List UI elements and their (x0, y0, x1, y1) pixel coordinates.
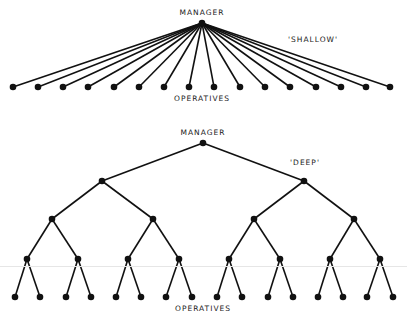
operative-node (340, 294, 347, 301)
operative-node (211, 84, 218, 91)
reporting-line (254, 219, 280, 259)
reporting-line (202, 23, 290, 87)
reporting-line (179, 259, 192, 297)
reporting-line (318, 259, 330, 297)
deep-operatives-label: OPERATIVES (175, 305, 231, 313)
operative-node (88, 294, 95, 301)
shallow-manager-label: MANAGER (180, 9, 225, 17)
middle-manager-node (351, 216, 358, 223)
middle-manager-node (277, 256, 284, 263)
reporting-line (229, 259, 242, 297)
diagram-canvas (0, 0, 407, 317)
operative-node (364, 294, 371, 301)
middle-manager-node (24, 256, 31, 263)
deep-title-label: 'DEEP' (290, 159, 320, 167)
reporting-line (280, 259, 293, 297)
operative-node (10, 84, 17, 91)
operative-node (186, 84, 193, 91)
middle-manager-node (301, 178, 308, 185)
reporting-line (166, 259, 179, 297)
reporting-line (52, 181, 102, 219)
middle-manager-node (75, 256, 82, 263)
middle-manager-node (251, 216, 258, 223)
operative-node (138, 294, 145, 301)
middle-manager-node (176, 256, 183, 263)
reporting-line (268, 259, 280, 297)
reporting-line (27, 219, 52, 259)
operative-node (239, 294, 246, 301)
reporting-line (116, 259, 128, 297)
reporting-line (254, 181, 304, 219)
shallow-operatives-label: OPERATIVES (174, 95, 230, 103)
reporting-line (102, 181, 153, 219)
reporting-line (304, 181, 354, 219)
reporting-line (27, 259, 40, 297)
middle-manager-node (327, 256, 334, 263)
operative-node (60, 84, 67, 91)
middle-manager-node (99, 178, 106, 185)
reporting-line (66, 259, 78, 297)
reporting-line (354, 219, 380, 259)
reporting-line (330, 219, 354, 259)
deep-hierarchy-tree (12, 140, 397, 301)
reporting-line (153, 219, 179, 259)
reporting-line (202, 23, 341, 87)
operative-node (37, 294, 44, 301)
reporting-line (128, 259, 141, 297)
shallow-hierarchy-tree (10, 20, 394, 91)
operative-node (287, 84, 294, 91)
reporting-line (330, 259, 343, 297)
reporting-line (78, 259, 91, 297)
reporting-line (114, 23, 202, 87)
operative-node (290, 294, 297, 301)
reporting-line (63, 23, 202, 87)
operative-node (363, 84, 370, 91)
operative-node (338, 84, 345, 91)
reporting-line (38, 23, 202, 87)
operative-node (237, 84, 244, 91)
operative-node (35, 84, 42, 91)
operative-node (12, 294, 19, 301)
reporting-line (128, 219, 153, 259)
reporting-line (202, 23, 390, 87)
reporting-line (15, 259, 27, 297)
operative-node (265, 294, 272, 301)
operative-node (136, 84, 143, 91)
operative-node (63, 294, 70, 301)
operative-node (85, 84, 92, 91)
reporting-line (203, 143, 304, 181)
operative-node (262, 84, 269, 91)
middle-manager-node (49, 216, 56, 223)
operative-node (163, 294, 170, 301)
middle-manager-node (125, 256, 132, 263)
operative-node (313, 84, 320, 91)
operative-node (189, 294, 196, 301)
deep-manager-label: MANAGER (181, 129, 226, 137)
operative-node (113, 294, 120, 301)
operative-node (214, 294, 221, 301)
reporting-line (367, 259, 380, 297)
manager-node (200, 140, 207, 147)
middle-manager-node (226, 256, 233, 263)
scan-artifact-line (0, 266, 407, 267)
reporting-line (202, 23, 316, 87)
middle-manager-node (377, 256, 384, 263)
reporting-line (229, 219, 254, 259)
reporting-line (13, 23, 202, 87)
reporting-line (380, 259, 393, 297)
operative-node (390, 294, 397, 301)
manager-node (199, 20, 206, 27)
reporting-line (52, 219, 78, 259)
shallow-title-label: 'SHALLOW' (288, 36, 338, 44)
reporting-line (217, 259, 229, 297)
reporting-line (202, 23, 366, 87)
reporting-line (102, 143, 203, 181)
operative-node (161, 84, 168, 91)
operative-node (315, 294, 322, 301)
operative-node (111, 84, 118, 91)
operative-node (387, 84, 394, 91)
middle-manager-node (150, 216, 157, 223)
